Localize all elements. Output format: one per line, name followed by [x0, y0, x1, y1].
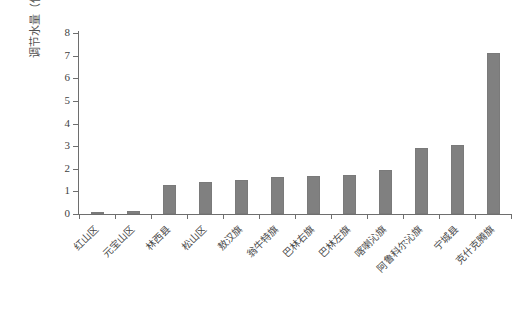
bar	[343, 175, 356, 214]
x-tick-mark	[403, 215, 404, 219]
bar	[271, 177, 284, 214]
y-tick-label: 3	[48, 140, 70, 151]
x-tick-mark	[367, 215, 368, 219]
x-tick-mark	[475, 215, 476, 219]
y-tick-mark	[73, 214, 78, 215]
bar	[451, 145, 464, 214]
bar	[379, 170, 392, 214]
bar-chart: 调节水量（亿立方米/年） 012345678 红山区元宝山区林西县松山区敖汉旗翁…	[0, 0, 529, 312]
y-tick-mark	[73, 146, 78, 147]
y-tick-label: 5	[48, 95, 70, 106]
bar	[415, 148, 428, 214]
y-tick-label: 4	[48, 118, 70, 129]
y-tick-mark	[73, 124, 78, 125]
y-tick-label: 8	[48, 27, 70, 38]
x-tick-mark	[511, 215, 512, 219]
y-tick-label: 1	[48, 185, 70, 196]
bar	[91, 212, 104, 214]
y-tick-label: 6	[48, 72, 70, 83]
y-tick-mark	[73, 78, 78, 79]
x-tick-mark	[295, 215, 296, 219]
x-tick-mark	[151, 215, 152, 219]
y-tick-mark	[73, 169, 78, 170]
y-axis-title: 调节水量（亿立方米/年）	[26, 0, 44, 58]
x-tick-mark	[79, 215, 80, 219]
bar	[307, 176, 320, 214]
bar	[487, 53, 500, 214]
bar	[235, 180, 248, 214]
y-tick-mark	[73, 191, 78, 192]
bars-container	[79, 30, 511, 214]
x-tick-mark	[223, 215, 224, 219]
x-tick-mark	[439, 215, 440, 219]
bar	[127, 211, 140, 214]
x-tick-mark	[115, 215, 116, 219]
y-tick-mark	[73, 56, 78, 57]
x-tick-mark	[331, 215, 332, 219]
x-tick-mark	[187, 215, 188, 219]
y-tick-mark	[73, 33, 78, 34]
y-tick-label: 7	[48, 50, 70, 61]
y-tick-mark	[73, 101, 78, 102]
y-tick-label: 0	[48, 208, 70, 219]
x-tick-mark	[259, 215, 260, 219]
y-tick-label: 2	[48, 163, 70, 174]
bar	[163, 185, 176, 214]
bar	[199, 182, 212, 214]
